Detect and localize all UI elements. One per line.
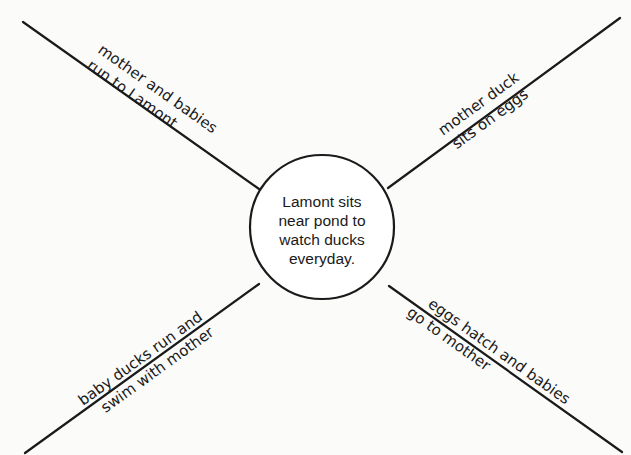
center-idea-line4: everyday. <box>262 249 382 268</box>
center-idea-line1: Lamont sits <box>262 192 382 211</box>
center-idea-line3: watch ducks <box>262 230 382 249</box>
center-idea-line2: near pond to <box>262 211 382 230</box>
spoke-label-bottom-left: baby ducks run and swim with mother <box>75 307 218 425</box>
spoke-label-bottom-right: eggs hatch and babies go to mother <box>404 288 574 424</box>
spoke-label-top-left: mother and babies run to Lamont <box>84 40 221 152</box>
center-idea: Lamont sits near pond to watch ducks eve… <box>262 192 382 268</box>
spoke-label-bottom-right-line1: eggs hatch and babies <box>425 295 574 409</box>
